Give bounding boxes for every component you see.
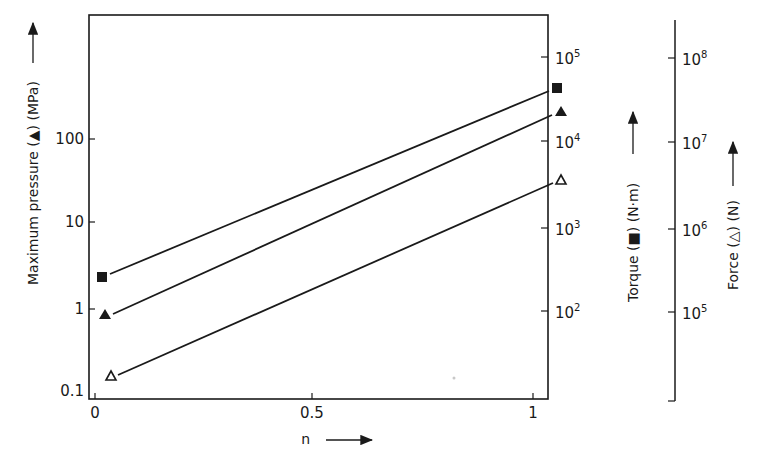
force-axis (668, 58, 675, 312)
torque-tick-label: 103 (555, 219, 580, 239)
torque-tick-label: 104 (555, 132, 580, 152)
open-triangle-marker (106, 371, 116, 380)
force-axis-title: Force (△) (N) (725, 200, 741, 290)
force-tick-label: 108 (682, 49, 707, 69)
left-tick-label: 10 (65, 213, 84, 231)
filled-square-marker (552, 83, 562, 93)
x-axis-title: n (301, 431, 310, 447)
torque-axis-title-group: Torque (■) (N·m) (625, 112, 641, 303)
force-tick-label: 106 (682, 220, 707, 240)
force-tick-labels: 108 107 106 105 (682, 49, 707, 323)
series-torque (97, 83, 562, 282)
series-pressure (99, 106, 567, 319)
x-tick-label: 0.5 (300, 404, 324, 422)
torque-tick-label: 102 (555, 302, 580, 322)
left-tick-label: 0.1 (60, 382, 84, 400)
open-triangle-marker (556, 175, 566, 184)
left-axis-title: Maximum pressure (▲) (MPa) (25, 81, 41, 285)
left-axis-title-group: Maximum pressure (▲) (MPa) (25, 23, 41, 285)
x-tick-label: 1 (528, 404, 538, 422)
scan-speck (453, 377, 456, 380)
filled-square-marker (97, 272, 107, 282)
torque-axis-title: Torque (■) (N·m) (625, 183, 641, 303)
left-axis (89, 139, 95, 309)
x-axis (95, 393, 533, 399)
chart: 0.1 1 10 100 Maximum pressure (▲) (MPa) … (0, 0, 757, 463)
filled-triangle-marker (99, 309, 111, 319)
x-tick-label: 0 (90, 404, 100, 422)
left-axis-tick-labels: 0.1 1 10 100 (55, 130, 84, 400)
torque-axis (541, 57, 548, 311)
force-tick-label: 107 (682, 133, 707, 153)
plot-frame (89, 15, 548, 399)
series-force (106, 175, 566, 380)
torque-tick-label: 105 (555, 48, 580, 68)
force-tick-label: 105 (682, 303, 707, 323)
left-tick-label: 1 (74, 300, 84, 318)
force-axis-title-group: Force (△) (N) (725, 142, 741, 290)
filled-triangle-marker (555, 106, 567, 116)
left-tick-label: 100 (55, 130, 84, 148)
